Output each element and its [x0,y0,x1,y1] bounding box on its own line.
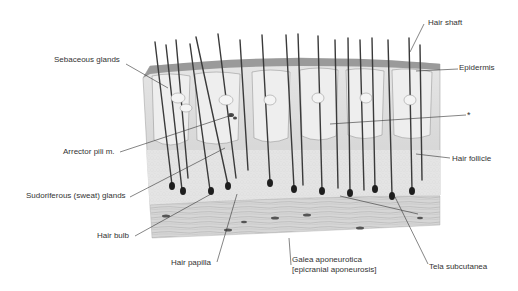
label-asterisk: * [467,110,471,120]
label-hair-follicle: Hair follicle [452,154,491,164]
label-tela-subcutanea: Tela subcutanea [429,262,487,272]
label-epidermis: Epidermis [459,63,495,73]
scalp-illustration [0,0,518,291]
label-arrector-pili: Arrector pili m. [63,147,115,157]
label-galea-aponeurotica: Galea aponeurotica [epicranial aponeuros… [292,255,377,275]
label-sebaceous-glands: Sebaceous glands [54,55,120,65]
label-galea-line2: [epicranial aponeurosis] [292,265,377,275]
label-hair-bulb: Hair bulb [97,231,129,241]
label-hair-papilla: Hair papilla [171,258,211,268]
label-galea-line1: Galea aponeurotica [292,255,377,265]
label-hair-shaft: Hair shaft [428,18,462,28]
label-sweat-glands: Sudoriferous (sweat) glands [26,191,126,201]
